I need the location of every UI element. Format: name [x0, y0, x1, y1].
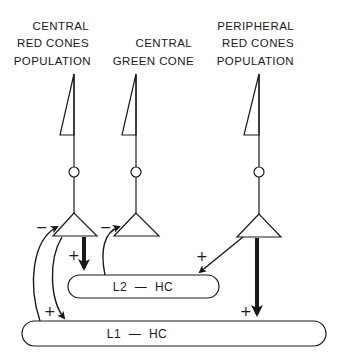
- sign-minus-green: −: [100, 219, 112, 235]
- cone-outer-segment-icon: [244, 74, 259, 135]
- label-line: CENTRAL: [136, 37, 193, 49]
- l2-hc-label: L2 — HC: [113, 280, 174, 294]
- central-red-cone: [53, 74, 97, 236]
- cone-pedicle-icon: [114, 213, 159, 236]
- cone-outer-segment-icon: [60, 74, 74, 135]
- label-line: POPULATION: [14, 55, 91, 67]
- cone-nucleus-icon: [69, 167, 79, 177]
- sign-plus-peripheral-to-l2: +: [196, 248, 208, 264]
- retina-circuit-diagram: CENTRAL RED CONES POPULATION CENTRAL GRE…: [0, 0, 342, 362]
- label-line: RED CONES: [17, 37, 89, 49]
- central-green-cone: [114, 74, 159, 236]
- sign-minus-red: −: [36, 219, 48, 235]
- cone-pedicle-icon: [53, 213, 97, 236]
- label-line: POPULATION: [217, 55, 294, 67]
- peripheral-red-cone: [237, 74, 281, 237]
- sign-plus-red-to-l2: +: [68, 247, 80, 263]
- l1-hc-label: L1 — HC: [107, 327, 168, 341]
- label-line: PERIPHERAL: [217, 20, 294, 32]
- cone-nucleus-icon: [131, 167, 141, 177]
- label-central-green-cone: CENTRAL GREEN CONE: [113, 37, 194, 67]
- label-line: RED CONES: [222, 37, 294, 49]
- label-line: CENTRAL: [33, 20, 90, 32]
- cone-outer-segment-icon: [122, 74, 136, 135]
- sign-plus-l1-to-red: +: [44, 303, 56, 319]
- label-peripheral-red-cones: PERIPHERAL RED CONES POPULATION: [217, 20, 294, 67]
- sign-plus-peripheral-to-l1: +: [240, 303, 252, 319]
- cone-nucleus-icon: [254, 167, 264, 177]
- label-central-red-cones: CENTRAL RED CONES POPULATION: [14, 20, 91, 67]
- label-line: GREEN CONE: [113, 55, 194, 67]
- l1-horizontal-cell: [22, 321, 326, 346]
- cone-pedicle-icon: [237, 214, 281, 237]
